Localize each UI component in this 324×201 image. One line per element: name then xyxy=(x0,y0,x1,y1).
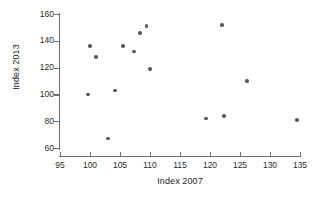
plot-area xyxy=(0,0,324,201)
data-point xyxy=(145,24,149,28)
data-point xyxy=(94,55,98,59)
x-axis-title: Index 2007 xyxy=(59,176,301,186)
data-point xyxy=(204,117,208,121)
data-point xyxy=(222,114,226,118)
data-point xyxy=(132,50,136,54)
data-point xyxy=(88,44,92,48)
data-point xyxy=(121,44,125,48)
data-point xyxy=(86,93,90,97)
data-point xyxy=(138,31,142,35)
data-point xyxy=(245,79,249,83)
y-axis-title: Index 2013 xyxy=(11,27,21,107)
data-point xyxy=(220,23,224,27)
data-point xyxy=(106,137,110,141)
data-point xyxy=(295,118,299,122)
data-point xyxy=(148,67,152,71)
scatter-plot-figure: 6080100120140160 95100105110115120125130… xyxy=(0,0,324,201)
data-point xyxy=(113,89,117,93)
